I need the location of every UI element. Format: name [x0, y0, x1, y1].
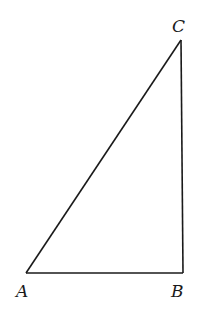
vertex-label-a: A: [14, 281, 28, 301]
vertex-label-c: C: [172, 16, 185, 36]
vertex-label-b: B: [170, 281, 184, 301]
side-bc: [181, 40, 183, 273]
triangle-diagram: C A B: [0, 0, 202, 319]
side-ac: [26, 40, 181, 273]
